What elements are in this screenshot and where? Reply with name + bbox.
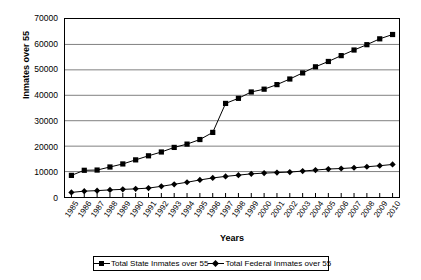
- square-data-point: [184, 142, 189, 147]
- square-data-point: [95, 167, 100, 172]
- legend-label: Total Federal Inmates over 55: [225, 259, 331, 268]
- square-data-point: [146, 153, 151, 158]
- diamond-data-point: [184, 179, 190, 185]
- diamond-data-point: [145, 185, 151, 191]
- y-tick-label: 30000: [14, 117, 58, 126]
- diamond-data-point: [377, 163, 383, 169]
- diamond-data-point: [210, 175, 216, 181]
- y-tick-label: 70000: [14, 14, 58, 23]
- y-tick-label: 10000: [14, 168, 58, 177]
- diamond-data-point: [389, 161, 395, 167]
- legend-entry-state: Total State Inmates over 55: [94, 259, 208, 268]
- diamond-data-point: [312, 167, 318, 173]
- y-tick-label: 20000: [14, 143, 58, 152]
- square-data-point: [274, 82, 279, 87]
- diamond-data-point: [351, 165, 357, 171]
- square-data-point: [249, 89, 254, 94]
- y-tick-label: 50000: [14, 65, 58, 74]
- square-data-point: [313, 64, 318, 69]
- square-data-point: [364, 42, 369, 47]
- x-axis-tick-labels: 1985198619871988198919901991199219931994…: [64, 200, 400, 234]
- square-data-point: [236, 96, 241, 101]
- square-data-point: [339, 53, 344, 58]
- series-line: [71, 35, 392, 176]
- chart-legend: Total State Inmates over 55 Total Federa…: [93, 256, 329, 271]
- square-data-point: [300, 70, 305, 75]
- square-data-point: [120, 161, 125, 166]
- square-data-point: [287, 76, 292, 81]
- square-data-point: [172, 145, 177, 150]
- y-axis-tick-labels: 70000 60000 50000 40000 30000 20000 1000…: [14, 14, 58, 198]
- diamond-data-point: [222, 173, 228, 179]
- legend-entry-federal: Total Federal Inmates over 55: [208, 259, 331, 268]
- series-line: [71, 164, 392, 192]
- diamond-data-point: [364, 164, 370, 170]
- square-data-point: [210, 130, 215, 135]
- diamond-data-point: [133, 186, 139, 192]
- diamond-data-point: [171, 181, 177, 187]
- square-data-point: [197, 137, 202, 142]
- plot-svg: [65, 19, 399, 197]
- y-tick-label: 0: [14, 194, 58, 203]
- square-data-point: [223, 101, 228, 106]
- diamond-data-point: [338, 165, 344, 171]
- diamond-data-point: [120, 186, 126, 192]
- diamond-data-point: [197, 177, 203, 183]
- square-data-point: [159, 149, 164, 154]
- square-data-point: [82, 168, 87, 173]
- square-data-point: [326, 59, 331, 64]
- chart-container: Inmates over 55 70000 60000 50000 40000 …: [0, 0, 421, 280]
- diamond-marker-icon: [208, 260, 224, 268]
- square-data-point: [351, 47, 356, 52]
- diamond-data-point: [158, 183, 164, 189]
- square-marker-icon: [94, 260, 110, 268]
- diamond-data-point: [235, 172, 241, 178]
- diamond-data-point: [81, 188, 87, 194]
- square-data-point: [107, 164, 112, 169]
- square-data-point: [377, 36, 382, 41]
- square-data-point: [390, 32, 395, 37]
- square-data-point: [133, 157, 138, 162]
- diamond-data-point: [287, 169, 293, 175]
- plot-area: [64, 18, 400, 198]
- legend-label: Total State Inmates over 55: [111, 259, 208, 268]
- diamond-data-point: [68, 189, 74, 195]
- diamond-data-point: [261, 170, 267, 176]
- square-data-point: [262, 87, 267, 92]
- diamond-data-point: [107, 187, 113, 193]
- y-tick-label: 60000: [14, 40, 58, 49]
- diamond-data-point: [94, 188, 100, 194]
- square-data-point: [69, 173, 74, 178]
- diamond-data-point: [274, 169, 280, 175]
- x-axis-title: Years: [64, 233, 400, 243]
- y-tick-label: 40000: [14, 91, 58, 100]
- diamond-data-point: [300, 168, 306, 174]
